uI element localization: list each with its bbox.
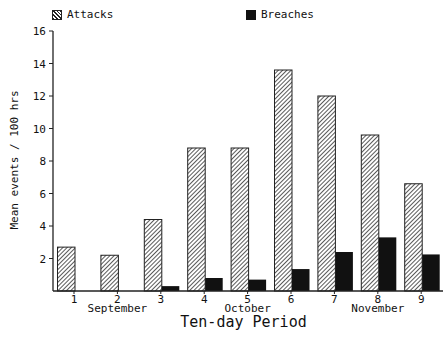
y-tick-label: 2 bbox=[39, 253, 46, 266]
x-tick-label: 3 bbox=[157, 293, 164, 306]
attacks-bar bbox=[144, 220, 162, 292]
legend-breaches-label: Breaches bbox=[261, 8, 314, 21]
breaches-bar bbox=[422, 254, 440, 291]
attacks-bar bbox=[101, 255, 119, 291]
x-tick-label: 4 bbox=[201, 293, 208, 306]
breaches-bar bbox=[205, 278, 223, 291]
y-tick-label: 4 bbox=[39, 220, 46, 233]
solid-swatch-icon bbox=[246, 10, 256, 20]
x-tick-label: 7 bbox=[331, 293, 338, 306]
y-tick-label: 14 bbox=[33, 58, 47, 71]
attacks-bar bbox=[188, 148, 206, 291]
attacks-bar bbox=[275, 70, 293, 291]
y-tick-label: 16 bbox=[33, 25, 46, 38]
breaches-bar bbox=[249, 280, 267, 291]
breaches-bar bbox=[379, 237, 397, 291]
bars-group bbox=[58, 70, 440, 291]
legend-breaches: Breaches bbox=[246, 8, 314, 21]
y-tick-label: 12 bbox=[33, 90, 46, 103]
breaches-bar bbox=[292, 269, 310, 291]
attacks-bar bbox=[405, 184, 423, 291]
x-axis-title: Ten-day Period bbox=[0, 313, 447, 331]
y-tick-label: 10 bbox=[33, 123, 46, 136]
attacks-bar bbox=[318, 96, 336, 291]
attacks-bar bbox=[58, 247, 76, 291]
x-tick-label: 1 bbox=[71, 293, 78, 306]
x-tick-label: 6 bbox=[288, 293, 295, 306]
bar-chart: 123456789246810121416 bbox=[0, 0, 447, 337]
attacks-bar bbox=[361, 135, 379, 291]
y-tick-label: 8 bbox=[39, 155, 46, 168]
breaches-bar bbox=[162, 286, 180, 291]
hatched-swatch-icon bbox=[52, 10, 62, 20]
x-tick-label: 9 bbox=[418, 293, 425, 306]
breaches-bar bbox=[335, 252, 353, 291]
y-tick-label: 6 bbox=[39, 188, 46, 201]
legend-attacks: Attacks bbox=[52, 8, 113, 21]
attacks-bar bbox=[231, 148, 249, 291]
legend-attacks-label: Attacks bbox=[67, 8, 113, 21]
